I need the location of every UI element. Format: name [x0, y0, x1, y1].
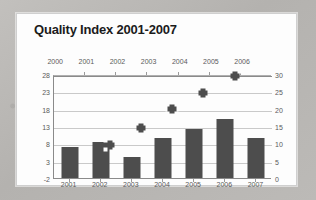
left-axis-tick: -2 — [44, 176, 50, 183]
chart-title: Quality Index 2001-2007 — [34, 22, 177, 37]
top-axis-tick: 2002 — [110, 58, 126, 65]
data-marker — [168, 104, 177, 113]
data-marker — [106, 141, 115, 150]
marker-series — [54, 76, 271, 178]
right-axis-tick: 15 — [275, 124, 283, 131]
data-marker — [137, 123, 146, 132]
right-axis-tick: 5 — [275, 158, 279, 165]
left-axis-tick: 8 — [46, 141, 50, 148]
bottom-axis-tick: 2007 — [248, 181, 264, 188]
left-axis-labels: 2823181383-2 — [31, 75, 50, 179]
top-axis-tick: 2001 — [79, 58, 95, 65]
data-marker — [230, 71, 239, 80]
right-axis-labels: 302520151050 — [275, 75, 297, 179]
top-axis-tick: 2005 — [203, 58, 219, 65]
top-axis-tick: 2003 — [141, 58, 157, 65]
bottom-axis-tick: 2003 — [123, 181, 139, 188]
top-axis-tick: 2000 — [47, 58, 63, 65]
right-axis-tick: 0 — [275, 176, 279, 183]
left-axis-tick: 3 — [46, 158, 50, 165]
chart-card: Quality Index 2001-2007 2000200120022003… — [16, 13, 297, 186]
bottom-axis-tick: 2005 — [185, 181, 201, 188]
data-marker — [199, 89, 208, 98]
bottom-axis-tick: 2004 — [154, 181, 170, 188]
plot-area — [53, 75, 271, 179]
bottom-axis-tick: 2006 — [216, 181, 232, 188]
left-axis-tick: 18 — [42, 106, 50, 113]
top-axis-tick: 2006 — [234, 58, 250, 65]
bottom-axis-tick: 2001 — [61, 181, 77, 188]
top-axis-labels: 2000200120022003200420052006 — [53, 58, 271, 70]
left-axis-tick: 28 — [42, 72, 50, 79]
left-axis-tick: 23 — [42, 89, 50, 96]
right-axis-tick: 30 — [275, 72, 283, 79]
bottom-axis-tick: 2002 — [92, 181, 108, 188]
left-axis-tick: 13 — [42, 124, 50, 131]
right-axis-tick: 20 — [275, 106, 283, 113]
right-axis-tick: 10 — [275, 141, 283, 148]
top-axis-tick: 2004 — [172, 58, 188, 65]
bottom-axis-labels: 2001200220032004200520062007 — [53, 181, 271, 193]
right-axis-tick: 25 — [275, 89, 283, 96]
